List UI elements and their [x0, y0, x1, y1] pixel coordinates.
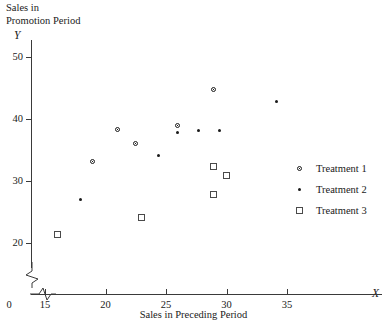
data-point-square-open [54, 231, 61, 238]
data-point-circle-open-dot [115, 127, 120, 132]
data-point-dot-filled [157, 154, 160, 157]
legend-marker-square-open-icon [296, 207, 303, 214]
x-axis-line [31, 294, 382, 295]
y-tick-mark [26, 243, 32, 244]
y-tick-label: 30 [5, 175, 23, 186]
scatter-plot-figure: Sales in Promotion Period Y X 0 20304050… [0, 0, 387, 322]
legend-marker-circle-open-dot-icon [297, 166, 302, 171]
data-point-dot-filled [79, 198, 82, 201]
data-point-dot-filled [275, 100, 278, 103]
data-point-square-open [138, 214, 145, 221]
data-point-square-open [210, 191, 217, 198]
x-axis-variable-label: X [372, 287, 379, 299]
data-point-square-open [210, 163, 217, 170]
data-point-circle-open-dot [90, 159, 95, 164]
data-point-circle-open-dot [133, 141, 138, 146]
data-point-dot-filled [197, 129, 200, 132]
x-axis-title: Sales in Preceding Period [0, 309, 387, 320]
x-tick-mark [227, 289, 228, 295]
y-axis-variable-label: Y [14, 29, 20, 41]
y-tick-mark [26, 119, 32, 120]
legend-label: Treatment 2 [316, 184, 367, 195]
x-tick-mark [166, 289, 167, 295]
data-point-square-open [223, 172, 230, 179]
y-axis-line [31, 40, 32, 268]
data-point-dot-filled [176, 131, 179, 134]
y-tick-label: 20 [5, 237, 23, 248]
legend-label: Treatment 1 [316, 163, 367, 174]
data-point-circle-open-dot [175, 123, 180, 128]
legend-marker-dot-filled-icon [298, 188, 301, 191]
y-tick-mark [26, 181, 32, 182]
y-tick-label: 40 [5, 113, 23, 124]
y-axis-break-mark [24, 262, 40, 288]
y-tick-label: 50 [5, 51, 23, 62]
y-tick-mark [26, 57, 32, 58]
data-point-dot-filled [218, 129, 221, 132]
legend-label: Treatment 3 [316, 205, 367, 216]
y-axis-title: Sales in Promotion Period [6, 2, 80, 27]
x-tick-mark [45, 289, 46, 295]
data-point-circle-open-dot [211, 87, 216, 92]
x-tick-mark [106, 289, 107, 295]
x-tick-mark [287, 289, 288, 295]
